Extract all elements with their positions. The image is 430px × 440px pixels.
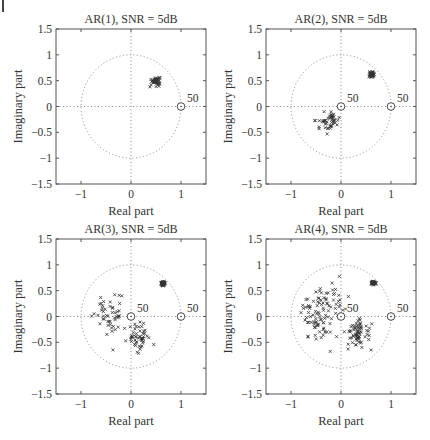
y-tick-label: 1.5 bbox=[248, 23, 263, 35]
x-axis-label: Real part bbox=[108, 414, 154, 428]
y-tick-label: −1.5 bbox=[31, 388, 52, 400]
y-tick-label: 0 bbox=[256, 101, 262, 113]
y-tick-label: 0 bbox=[46, 311, 52, 323]
x-tick-label: 0 bbox=[128, 188, 134, 200]
chart-svg: AR(3), SNR = 5dB−101−1.5−1−0.500.511.5Re… bbox=[0, 210, 215, 430]
y-tick-label: 1 bbox=[256, 49, 262, 61]
chart-svg: AR(2), SNR = 5dB−101−1.5−1−0.500.511.5Re… bbox=[210, 0, 425, 220]
y-tick-label: −1 bbox=[40, 362, 52, 374]
y-tick-label: 1.5 bbox=[38, 23, 53, 35]
marker-count-label: 50 bbox=[347, 92, 359, 104]
y-tick-label: −1.5 bbox=[241, 178, 262, 190]
y-tick-label: 1 bbox=[46, 259, 52, 271]
x-tick-label: −1 bbox=[75, 188, 87, 200]
y-tick-label: −1 bbox=[250, 152, 262, 164]
chart-panel-ar4: AR(4), SNR = 5dB−101−1.5−1−0.500.511.5Re… bbox=[210, 210, 425, 430]
y-tick-label: −0.5 bbox=[241, 126, 262, 138]
y-axis-label: Imaginary part bbox=[221, 279, 235, 353]
marker-count-label: 50 bbox=[137, 302, 149, 314]
y-tick-label: 0.5 bbox=[248, 75, 263, 87]
chart-panel-ar1: AR(1), SNR = 5dB−101−1.5−1−0.500.511.5Re… bbox=[0, 0, 215, 220]
x-tick-label: −1 bbox=[285, 398, 297, 410]
y-tick-label: −1.5 bbox=[241, 388, 262, 400]
y-tick-label: 0 bbox=[46, 101, 52, 113]
marker-count-label: 50 bbox=[187, 92, 199, 104]
y-tick-label: 0.5 bbox=[38, 75, 53, 87]
chart-panel-ar3: AR(3), SNR = 5dB−101−1.5−1−0.500.511.5Re… bbox=[0, 210, 215, 430]
x-axis-label: Real part bbox=[318, 414, 364, 428]
chart-title: AR(3), SNR = 5dB bbox=[85, 222, 178, 236]
chart-svg: AR(4), SNR = 5dB−101−1.5−1−0.500.511.5Re… bbox=[210, 210, 425, 430]
y-tick-label: −1.5 bbox=[31, 178, 52, 190]
y-axis-label: Imaginary part bbox=[221, 69, 235, 143]
x-tick-label: 1 bbox=[178, 398, 184, 410]
x-tick-label: 1 bbox=[388, 398, 394, 410]
y-tick-label: −0.5 bbox=[241, 336, 262, 348]
y-tick-label: −1 bbox=[250, 362, 262, 374]
y-tick-label: 1.5 bbox=[38, 233, 53, 245]
y-tick-label: −0.5 bbox=[31, 336, 52, 348]
chart-svg: AR(1), SNR = 5dB−101−1.5−1−0.500.511.5Re… bbox=[0, 0, 215, 220]
y-axis-label: Imaginary part bbox=[11, 69, 25, 143]
y-tick-label: −1 bbox=[40, 152, 52, 164]
x-tick-label: −1 bbox=[75, 398, 87, 410]
marker-count-label: 50 bbox=[347, 302, 359, 314]
y-tick-label: −0.5 bbox=[31, 126, 52, 138]
y-tick-label: 0 bbox=[256, 311, 262, 323]
x-tick-label: 1 bbox=[178, 188, 184, 200]
chart-panel-ar2: AR(2), SNR = 5dB−101−1.5−1−0.500.511.5Re… bbox=[210, 0, 425, 220]
marker-count-label: 50 bbox=[397, 302, 409, 314]
y-tick-label: 0.5 bbox=[248, 285, 263, 297]
chart-title: AR(1), SNR = 5dB bbox=[85, 12, 178, 26]
x-tick-label: 0 bbox=[338, 188, 344, 200]
marker-count-label: 50 bbox=[397, 92, 409, 104]
x-tick-label: 1 bbox=[388, 188, 394, 200]
x-tick-label: 0 bbox=[338, 398, 344, 410]
chart-title: AR(2), SNR = 5dB bbox=[295, 12, 388, 26]
y-tick-label: 1 bbox=[46, 49, 52, 61]
x-tick-label: −1 bbox=[285, 188, 297, 200]
y-tick-label: 0.5 bbox=[38, 285, 53, 297]
x-tick-label: 0 bbox=[128, 398, 134, 410]
y-tick-label: 1 bbox=[256, 259, 262, 271]
chart-title: AR(4), SNR = 5dB bbox=[295, 222, 388, 236]
y-axis-label: Imaginary part bbox=[11, 279, 25, 353]
y-tick-label: 1.5 bbox=[248, 233, 263, 245]
marker-count-label: 50 bbox=[187, 302, 199, 314]
